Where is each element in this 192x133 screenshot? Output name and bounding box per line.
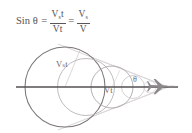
label-wavefront-large: Vₛt: [56, 60, 68, 69]
aircraft-wing-upper: [154, 79, 164, 86]
label-angle-theta: θ: [133, 76, 137, 84]
mach-cone-diagram: [0, 0, 192, 133]
label-wavefront-small: Vt: [104, 86, 113, 95]
figure-canvas: Sin θ = Vst Vt = Vs V: [0, 0, 192, 133]
radius-markers: [65, 50, 120, 87]
aircraft-nose: [167, 86, 177, 88]
aircraft-tail-upper: [147, 82, 152, 87]
